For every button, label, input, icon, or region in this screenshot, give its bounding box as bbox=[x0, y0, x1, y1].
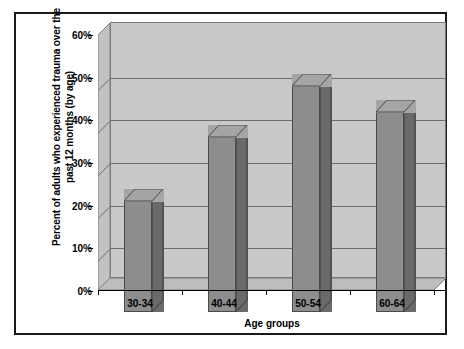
bar-front-30-34 bbox=[124, 201, 152, 312]
x-axis-title: Age groups bbox=[98, 318, 446, 329]
bar-side-50-54 bbox=[320, 74, 332, 312]
y-tick-mark-40 bbox=[88, 120, 93, 121]
y-tick-mark-60 bbox=[88, 35, 93, 36]
gridline-50 bbox=[110, 78, 446, 79]
left-wall-gridlines bbox=[98, 22, 111, 290]
bar-side-30-34 bbox=[152, 189, 164, 312]
bar-top-40-44 bbox=[208, 125, 248, 138]
y-tick-label-10: 10% bbox=[58, 243, 92, 254]
plot-area: 30-34 40-44 50-54 60-64 bbox=[98, 22, 446, 312]
x-axis-line bbox=[98, 290, 446, 291]
y-tick-mark-10 bbox=[88, 248, 93, 249]
bar-60-64[interactable] bbox=[376, 112, 404, 312]
chart-frame: Percent of adults who experienced trauma… bbox=[14, 12, 447, 335]
x-tick-mark-0 bbox=[98, 290, 99, 295]
x-tick-label-40-44: 40-44 bbox=[184, 298, 264, 309]
y-tick-label-50: 50% bbox=[58, 72, 92, 83]
y-tick-mark-50 bbox=[88, 78, 93, 79]
bar-front-60-64 bbox=[376, 112, 404, 312]
x-tick-mark-4 bbox=[434, 290, 435, 295]
bar-top-30-34 bbox=[124, 189, 164, 202]
y-tick-label-30: 30% bbox=[58, 158, 92, 169]
bar-top-60-64 bbox=[376, 100, 416, 113]
bar-50-54[interactable] bbox=[292, 86, 320, 312]
y-tick-label-0: 0% bbox=[58, 286, 92, 297]
bar-side-40-44 bbox=[236, 125, 248, 312]
x-tick-label-60-64: 60-64 bbox=[352, 298, 432, 309]
y-tick-label-20: 20% bbox=[58, 200, 92, 211]
y-tick-mark-20 bbox=[88, 206, 93, 207]
x-tick-mark-1 bbox=[182, 290, 183, 295]
y-axis-tick-labels: 60% 50% 40% 30% 20% 10% 0% bbox=[52, 14, 92, 337]
y-tick-label-60: 60% bbox=[58, 30, 92, 41]
bar-front-50-54 bbox=[292, 86, 320, 312]
bar-30-34[interactable] bbox=[124, 201, 152, 312]
y-tick-mark-0 bbox=[88, 291, 93, 292]
x-tick-mark-3 bbox=[350, 290, 351, 295]
bar-40-44[interactable] bbox=[208, 137, 236, 312]
x-tick-label-30-34: 30-34 bbox=[100, 298, 180, 309]
y-tick-label-40: 40% bbox=[58, 115, 92, 126]
bar-front-40-44 bbox=[208, 137, 236, 312]
x-tick-label-50-54: 50-54 bbox=[268, 298, 348, 309]
bar-side-60-64 bbox=[404, 100, 416, 312]
bar-top-50-54 bbox=[292, 74, 332, 87]
x-tick-mark-2 bbox=[266, 290, 267, 295]
y-tick-mark-30 bbox=[88, 163, 93, 164]
